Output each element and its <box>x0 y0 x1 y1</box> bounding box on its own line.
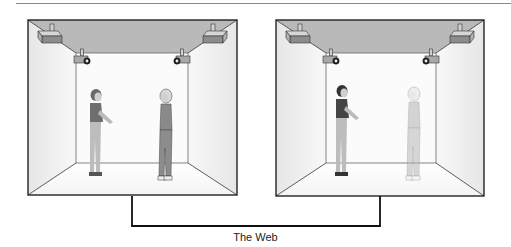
web-caption: The Web <box>0 231 511 243</box>
left-room <box>28 20 237 195</box>
right-room <box>276 20 484 196</box>
telepresence-diagram <box>0 0 511 247</box>
network-connector <box>132 196 380 226</box>
